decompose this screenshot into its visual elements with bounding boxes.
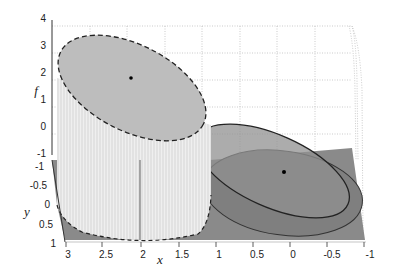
tilted-ellipse-center-marker	[282, 170, 286, 174]
cylinder-top-center-marker	[129, 76, 133, 80]
x-tick-label: 0.5	[250, 249, 264, 260]
x-axis-tick-labels: 3 2.5 2 1.5 1 0.5 0 -0.5 -1	[65, 249, 375, 260]
x-tick-label: 2.5	[99, 249, 113, 260]
f-axis-ticks: 4 3 2 1 0 -1	[37, 13, 46, 159]
x-tick-label: 0	[290, 249, 296, 260]
y-tick-label: -1	[35, 161, 44, 172]
x-axis-label: x	[156, 252, 163, 267]
y-tick-label: 1	[50, 238, 56, 249]
y-axis-ticks: -1 -0.5 0 0.5 1	[30, 161, 57, 249]
f-tick-label: 2	[40, 67, 46, 78]
f-axis-label: f	[34, 83, 40, 98]
f-tick-label: 1	[40, 94, 46, 105]
y-axis-label: y	[22, 204, 30, 219]
x-tick-label: -0.5	[323, 249, 341, 260]
chart-3d-plot: 4 3 2 1 0 -1 f -1 -0.5 0 0.5 1 y 3 2.5 2…	[0, 0, 395, 274]
x-axis-ticks	[66, 242, 364, 247]
f-tick-label: -1	[37, 148, 46, 159]
x-tick-label: 3	[65, 249, 71, 260]
x-tick-label: 1.5	[175, 249, 189, 260]
f-tick-label: 4	[40, 13, 46, 24]
y-tick-label: -0.5	[30, 180, 48, 191]
f-tick-label: 3	[40, 40, 46, 51]
cylinder-left	[41, 13, 223, 240]
y-tick-label: 0	[44, 199, 50, 210]
x-tick-label: 2	[140, 249, 146, 260]
y-tick-label: 0.5	[39, 219, 53, 230]
x-tick-label: -1	[366, 249, 375, 260]
f-tick-label: 0	[40, 121, 46, 132]
x-tick-label: 1	[216, 249, 222, 260]
